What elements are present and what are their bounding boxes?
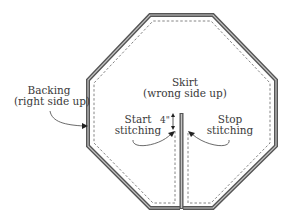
tree-skirt-diagram (0, 0, 298, 223)
backing-label-line2: (right side up) (14, 96, 84, 107)
stop-label-line2: stitching (205, 125, 255, 136)
start-stitching-label: Start stitching (114, 114, 162, 136)
stop-stitching-label: Stop stitching (205, 114, 255, 136)
skirt-label: Skirt (wrong side up) (140, 77, 230, 99)
skirt-slit (180, 113, 184, 209)
skirt-label-line2: (wrong side up) (140, 88, 230, 99)
backing-arrow (50, 111, 88, 129)
start-label-line2: stitching (114, 125, 162, 136)
backing-label: Backing (right side up) (14, 85, 84, 107)
measurement-arrow (171, 113, 175, 130)
measurement-label: 4" (160, 115, 170, 125)
